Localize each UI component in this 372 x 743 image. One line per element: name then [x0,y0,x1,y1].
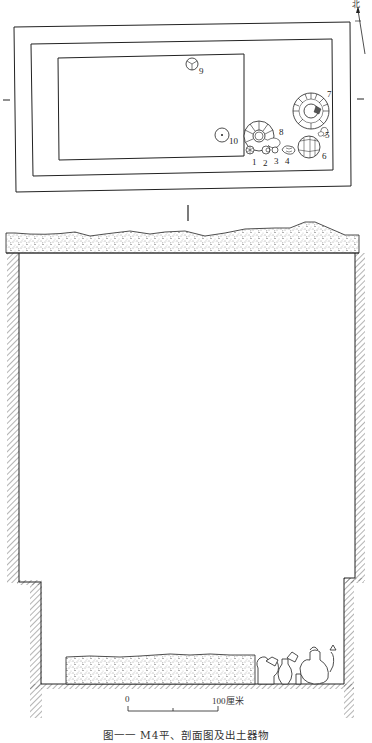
right-wall-lower [344,578,354,718]
figure-caption: 图一一 M4平、剖面图及出土器物 [0,727,372,742]
left-wall-upper [7,253,19,583]
artifact-label-6: 6 [322,151,327,161]
artifact-label-5: 5 [325,130,330,140]
artifact-10 [215,128,229,142]
north-arrow-icon [355,6,365,54]
artifact-2 [262,146,270,154]
plan-view: 9 10 1 2 3 4 5 6 7 8 [3,6,365,192]
pit-section-outline [19,253,355,684]
pottery-vessels [257,645,336,684]
artifact-9 [186,58,198,70]
artifact-label-10: 10 [229,136,239,146]
right-step-hatch [344,578,364,583]
artifact-label-1: 1 [252,157,257,167]
artifact-4 [282,146,295,154]
artifact-3 [272,147,278,153]
scale-bar [128,706,218,711]
artifact-label-9: 9 [199,66,204,76]
artifact-1 [246,146,254,154]
floor-hatch [30,684,354,689]
coffin-fill-layer [66,654,255,684]
artifact-label-3: 3 [274,156,279,166]
scale-end-label: 100厘米 [212,694,244,707]
artifact-6 [298,136,320,158]
coffin-outline [58,54,244,160]
artifact-label-4: 4 [285,156,290,166]
surface-fill-layer [6,222,359,253]
scale-start-label: 0 [125,694,130,704]
section-view [6,222,365,718]
artifact-7 [293,93,329,129]
artifact-label-8: 8 [279,127,284,137]
left-wall-lower [30,583,42,718]
artifact-label-7: 7 [327,89,332,99]
north-label: 北 [352,0,360,9]
right-wall-upper [355,253,365,581]
artifact-label-2: 2 [263,158,268,168]
tomb-drawing: 9 10 1 2 3 4 5 6 7 8 [0,0,372,743]
